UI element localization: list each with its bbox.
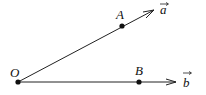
arrowhead-a-icon xyxy=(143,10,154,18)
point-o xyxy=(15,79,20,84)
ray-oa xyxy=(18,10,154,82)
vector-label-a: a xyxy=(160,2,169,17)
vector-label-b: b xyxy=(183,72,192,91)
label-b: B xyxy=(135,63,143,78)
label-o: O xyxy=(10,65,20,80)
point-a xyxy=(119,23,124,28)
vector-b-letter: b xyxy=(183,75,190,90)
vector-diagram: O A B a b xyxy=(0,0,206,95)
label-a: A xyxy=(115,7,124,22)
point-b xyxy=(136,79,141,84)
